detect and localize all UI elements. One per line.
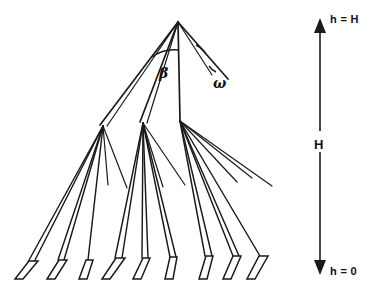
scale-top-label: h = H (330, 14, 359, 25)
figure-canvas: h = H h = 0 H β ω (0, 0, 371, 293)
primary-branch-right (178, 22, 180, 120)
left-fan-stub-1 (103, 126, 108, 185)
primary-branch-far-right-inner (178, 22, 212, 75)
right-fan-stub-1 (180, 121, 237, 182)
arrow-up-icon (314, 18, 326, 33)
scale-span-label: H (314, 138, 323, 151)
middle-fan-branch-1 (115, 123, 143, 258)
left-node-fan (28, 126, 127, 262)
middle-node-fan (115, 123, 185, 258)
terminal-wedge-8 (223, 256, 241, 279)
terminal-wedge-7 (199, 256, 213, 279)
terminal-wedge-4 (102, 258, 125, 279)
terminal-wedge-3 (79, 260, 93, 279)
terminal-wedge-6 (165, 257, 177, 279)
left-fan-branch-4 (64, 126, 103, 260)
left-fan-branch-2 (34, 126, 103, 262)
arrow-down-icon (314, 260, 326, 275)
left-fan-branch-1 (28, 126, 103, 262)
left-fan-branch-3 (58, 126, 103, 260)
omega-angle-label: ω (213, 76, 226, 90)
terminal-wedge-group (15, 256, 268, 279)
middle-fan-branch-6 (143, 123, 176, 257)
middle-fan-branch-2 (122, 123, 143, 258)
beta-angle-label: β (159, 66, 168, 80)
terminal-wedge-5 (133, 258, 150, 279)
terminal-wedge-9 (247, 256, 268, 279)
terminal-wedge-2 (47, 260, 67, 279)
middle-fan-stub-1 (143, 123, 163, 187)
terminal-wedge-1 (15, 261, 38, 279)
scale-bottom-label: h = 0 (330, 266, 357, 277)
right-node-fan (180, 121, 272, 256)
middle-fan-branch-3 (142, 123, 143, 258)
left-fan-stub-2 (103, 126, 127, 188)
